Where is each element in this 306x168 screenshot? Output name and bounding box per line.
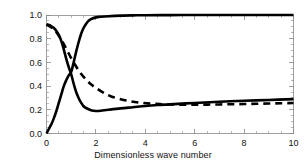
tick-labels: 02468100.00.20.40.60.81.0 (29, 10, 298, 148)
x-tick-label: 4 (143, 138, 148, 148)
y-tick-label: 0.4 (29, 81, 42, 91)
plot-frame (47, 15, 294, 134)
x-tick-label: 10 (288, 138, 298, 148)
y-tick-label: 0.6 (29, 58, 42, 68)
series-line (47, 15, 294, 134)
y-tick-label: 0.0 (29, 129, 42, 139)
chart-figure: 02468100.00.20.40.60.81.0 Dimensionless … (0, 0, 306, 168)
data-series (47, 15, 294, 134)
y-tick-label: 1.0 (29, 10, 42, 20)
x-tick-label: 6 (192, 138, 197, 148)
series-line (47, 24, 294, 111)
axis-ticks (47, 15, 294, 134)
y-tick-label: 0.8 (29, 34, 42, 44)
x-axis-title: Dimensionless wave number (0, 150, 306, 160)
x-tick-label: 8 (242, 138, 247, 148)
x-tick-label: 0 (44, 138, 49, 148)
y-tick-label: 0.2 (29, 105, 42, 115)
series-line (47, 24, 294, 104)
plot-area: 02468100.00.20.40.60.81.0 (0, 0, 306, 168)
x-tick-label: 2 (93, 138, 98, 148)
